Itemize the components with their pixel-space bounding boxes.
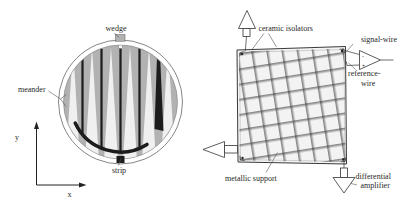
amp-triangle-up: [239, 11, 256, 29]
differential-amplifier-label-line2: amplifier: [361, 181, 391, 190]
amp-triangle-left: [203, 142, 225, 158]
wedge-strip-anode-figure: wedge meander strip y x: [15, 24, 183, 199]
wedge-label: wedge: [106, 24, 127, 33]
y-axis-arrowhead: [34, 122, 39, 130]
x-axis-arrowhead: [79, 183, 87, 188]
differential-amplifier-label-line1: differential: [356, 172, 392, 181]
detector-diagram: wedge meander strip y x: [0, 0, 403, 211]
signal-wire-label: signal-wire: [361, 35, 397, 44]
wire-array-figure: - + ceramic isolators signal-wire refere…: [203, 11, 397, 194]
amplifier-right: - +: [345, 51, 394, 70]
y-axis-label: y: [15, 133, 19, 142]
diagram-canvas: wedge meander strip y x: [0, 0, 403, 211]
reference-wire-label-line1: reference-: [348, 69, 381, 78]
differential-amplifier-pointer: [351, 184, 357, 186]
metallic-support-label: metallic support: [225, 174, 278, 183]
signal-wire-pointer: [347, 44, 354, 52]
amplifier-bottom-right: [333, 162, 355, 194]
amplifier-bottom-left: [203, 142, 238, 158]
wire-mesh: [230, 40, 355, 172]
reference-wire-line: [346, 62, 359, 66]
meander-label: meander: [18, 85, 46, 94]
amp-triangle-down: [333, 178, 355, 194]
ceramic-isolators-label: ceramic isolators: [259, 24, 313, 33]
strip-label: strip: [112, 166, 126, 175]
amplifier-top-left: [239, 11, 256, 52]
amp-minus-sign: -: [362, 53, 364, 59]
ceramic-isolators-pointer-lines: [252, 34, 277, 50]
reference-wire-label-line2: wire: [361, 79, 376, 88]
x-axis-label: x: [68, 190, 72, 199]
